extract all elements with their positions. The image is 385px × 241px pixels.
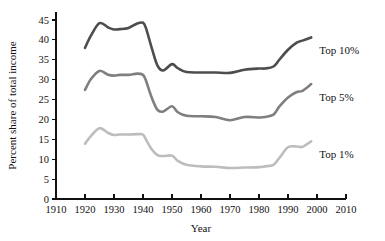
y-tick-label: 25 [39, 94, 50, 105]
x-tick-label: 1970 [220, 204, 241, 215]
series-line-top-1 [85, 128, 311, 168]
series-line-top-10 [85, 22, 311, 73]
x-tick-label: 1920 [75, 204, 96, 215]
series-label-top-5: Top 5% [319, 91, 353, 103]
y-tick-label: 5 [44, 174, 49, 185]
y-tick-label: 35 [39, 54, 50, 65]
y-axis-title: Percent share of total income [6, 41, 18, 169]
series-label-top-10: Top 10% [319, 44, 359, 56]
x-tick-label: 2010 [336, 204, 357, 215]
line-chart: 0510152025303540451910192019301940195019… [0, 0, 385, 241]
x-tick-label: 1950 [162, 204, 183, 215]
y-tick-label: 45 [39, 15, 50, 26]
x-tick-label: 1960 [191, 204, 212, 215]
y-tick-label: 0 [44, 194, 49, 205]
y-tick-label: 10 [39, 154, 50, 165]
y-tick-label: 15 [39, 134, 50, 145]
y-tick-label: 20 [39, 114, 50, 125]
x-tick-label: 1930 [104, 204, 125, 215]
series-labels: Top 10%Top 5%Top 1% [319, 44, 359, 160]
series-line-top-5 [85, 71, 311, 120]
chart-container: 0510152025303540451910192019301940195019… [0, 0, 385, 241]
series-lines [85, 22, 311, 168]
series-label-top-1: Top 1% [319, 148, 353, 160]
x-tick-label: 1910 [46, 204, 67, 215]
x-tick-label: 2000 [307, 204, 328, 215]
x-tick-label: 1940 [133, 204, 154, 215]
x-tick-label: 1980 [249, 204, 270, 215]
x-axis-title: Year [191, 222, 212, 234]
x-tick-label: 1990 [278, 204, 299, 215]
y-tick-label: 30 [39, 74, 50, 85]
y-tick-label: 40 [39, 34, 50, 45]
